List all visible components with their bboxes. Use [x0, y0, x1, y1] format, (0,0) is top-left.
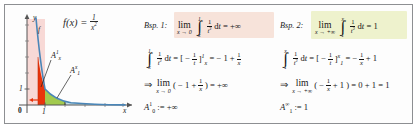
example-2-panel: Bsp. 2: lim x → +∞ x ∫ 1 1 t2 dt = 1	[277, 5, 414, 123]
bracket-limits: ]x1	[335, 53, 344, 66]
line3-expr-open: ( −	[314, 80, 324, 90]
line3-expr-open: ( − 1 +	[173, 80, 196, 90]
x-axis-arrow	[127, 103, 132, 108]
limit-block: lim x → +∞	[315, 20, 335, 36]
example-2-line-2: x ∫ 1 1 t2 dt = [ − 1 t ]x1 = − 1	[280, 49, 377, 70]
differential: dt	[164, 53, 171, 63]
implies-symbol: ⇒	[144, 79, 152, 90]
line3-result: = +∞	[210, 80, 228, 90]
implies-symbol: ⇒	[280, 79, 288, 90]
integral-block: x ∫ 1	[337, 17, 348, 38]
area-symbol-sup: 1	[149, 101, 152, 107]
differential: dt	[300, 53, 307, 63]
area-label-right: Ax1	[70, 64, 80, 76]
tail-fraction: 1 x	[359, 52, 363, 67]
example-1-title: Bsp. 1:	[144, 21, 167, 30]
limit-block: lim x → +∞	[292, 78, 312, 94]
function-label-fraction: 1 x2	[90, 14, 98, 32]
line2-eq1: = [ −	[309, 53, 326, 63]
limit-block: lim x → 0	[156, 78, 171, 94]
example-2-title: Bsp. 2:	[280, 21, 303, 30]
example-1-panel: Bsp. 1: lim x → 0 1 ∫ x 1 t2 dt = +∞	[141, 5, 277, 123]
differential: dt	[358, 21, 365, 31]
line2-tail-end: + 1	[366, 53, 377, 63]
integrand-fraction: 1 t2	[293, 51, 298, 67]
y-tick-label-1: 1	[19, 84, 23, 93]
bracket-fraction: 1 t	[328, 52, 332, 67]
example-1-line-2: 1 ∫ x 1 t2 dt = [ − 1 t ]1x = − 1 + 1	[144, 49, 241, 70]
line1-equals: = 1	[366, 21, 377, 31]
line4-assign: := 1	[294, 102, 308, 112]
curve-label-f: f	[38, 25, 40, 34]
line1-equals: = +∞	[223, 21, 241, 31]
line2-eq1: = [ −	[173, 53, 190, 63]
figure-frame: f(x) = 1 x2 y x f 1 1 0 A1x Ax1	[4, 4, 413, 124]
differential: dt	[214, 21, 221, 31]
example-1-line-4: A10 := +∞	[144, 102, 178, 114]
x-tick-label-1: 1	[42, 107, 46, 116]
origin-label: 0	[18, 106, 22, 115]
y-axis-label: y	[33, 13, 36, 22]
figure-page: f(x) = 1 x2 y x f 1 1 0 A1x Ax1	[0, 0, 417, 128]
example-2-line-3: ⇒ lim x → +∞ ( − 1 x + 1 ) = 0 + 1 = 1	[280, 78, 389, 94]
integral-block: x ∫ 1	[280, 49, 291, 70]
integrand-fraction: 1 t2	[350, 19, 355, 35]
area-symbol-sub: 0	[152, 108, 155, 114]
line3-result: = 0 + 1 = 1	[351, 80, 389, 90]
function-label-lhs: f(x) =	[63, 17, 87, 28]
graph-panel: f(x) = 1 x2 y x f 1 1 0 A1x Ax1	[5, 5, 140, 123]
line3-expr-close: )	[205, 80, 208, 90]
example-1-line-3: ⇒ lim x → 0 ( − 1 + 1 x ) = +∞	[144, 78, 228, 94]
integrand-fraction: 1 t2	[157, 51, 162, 67]
leader-line-right-area	[57, 75, 71, 98]
tail-fraction: 1 x	[237, 52, 241, 67]
example-1-line-1: lim x → 0 1 ∫ x 1 t2 dt = +∞	[177, 17, 241, 38]
line3-expr-mid: + 1 )	[333, 80, 349, 90]
example-2-line-1: lim x → +∞ x ∫ 1 1 t2 dt = 1	[315, 17, 378, 38]
area-symbol-sub: 1	[289, 108, 292, 114]
line3-fraction: 1 x	[326, 78, 330, 93]
y-axis-arrow	[25, 14, 30, 19]
line2-eq2: = −	[345, 53, 357, 63]
function-denominator: x2	[90, 22, 98, 31]
x-axis-label: x	[123, 106, 126, 115]
line4-assign: := +∞	[157, 102, 177, 112]
area-symbol-sup: ∞	[285, 101, 289, 107]
function-label: f(x) = 1 x2	[63, 14, 98, 32]
area-label-left: A1x	[51, 49, 61, 61]
integral-block: 1 ∫ x	[144, 49, 155, 70]
limit-block: lim x → 0	[177, 20, 192, 36]
bracket-limits: ]1x	[199, 53, 208, 66]
example-2-line-4: A∞1 := 1	[280, 102, 308, 114]
line2-eq2: = − 1 +	[209, 53, 234, 63]
integrand-fraction: 1 t2	[207, 19, 212, 35]
bracket-fraction: 1 t	[192, 52, 196, 67]
integral-block: 1 ∫ x	[194, 17, 205, 38]
line3-fraction: 1 x	[198, 78, 202, 93]
